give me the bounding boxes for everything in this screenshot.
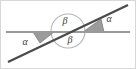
angle-label-alpha-right: α [106,13,112,24]
angle-label-beta-bottom: β [67,34,73,45]
angle-diagram-canvas: α α β β [0,0,136,69]
angle-label-beta-top: β [62,15,68,26]
angle-label-alpha-left: α [22,36,28,47]
angle-diagram-figure: α α β β [0,0,136,69]
